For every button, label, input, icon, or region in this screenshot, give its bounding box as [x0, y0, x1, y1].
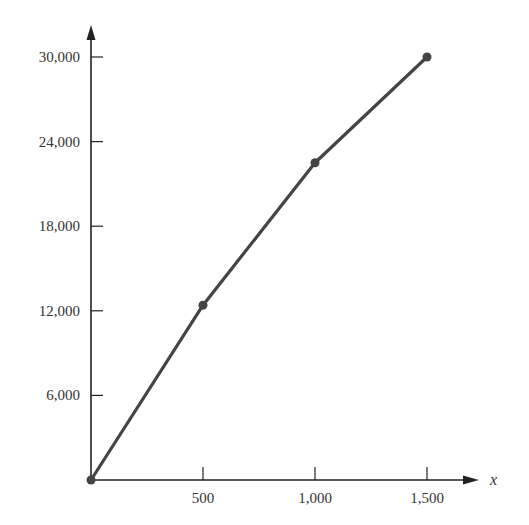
x-axis: 5001,0001,500 [91, 467, 479, 506]
x-tick-label: 1,000 [298, 490, 332, 506]
series-line [91, 57, 427, 480]
y-axis-arrow-icon [87, 25, 96, 40]
data-point-marker [87, 476, 96, 485]
data-series [87, 53, 432, 485]
line-chart: 6,00012,00018,00024,00030,000 5001,0001,… [0, 0, 529, 525]
x-tick-label: 500 [192, 490, 215, 506]
y-axis: 6,00012,00018,00024,00030,000 [39, 25, 103, 480]
y-tick-label: 30,000 [39, 49, 80, 65]
y-tick-label: 18,000 [39, 218, 80, 234]
x-axis-label: x [489, 471, 497, 488]
data-point-marker [199, 301, 208, 310]
x-axis-arrow-icon [463, 476, 479, 485]
data-point-marker [311, 158, 320, 167]
y-tick-label: 24,000 [39, 134, 80, 150]
data-point-marker [423, 53, 432, 62]
x-tick-label: 1,500 [410, 490, 444, 506]
y-tick-label: 12,000 [39, 303, 80, 319]
y-tick-label: 6,000 [46, 387, 80, 403]
